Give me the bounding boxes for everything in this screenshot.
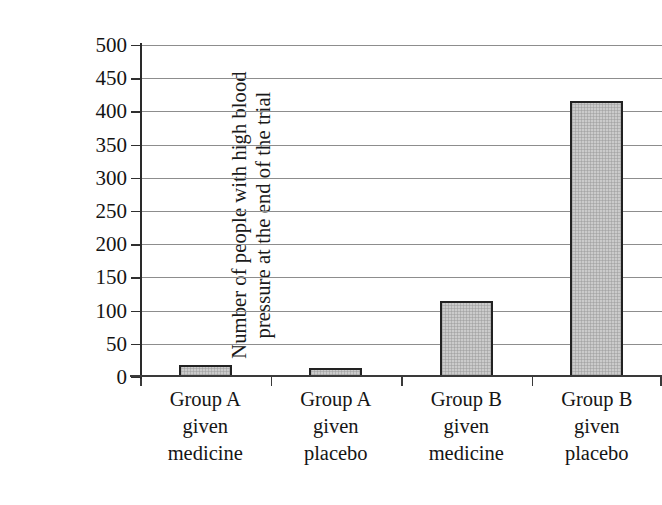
y-axis-title: Number of people with high blood pressur…: [0, 0, 92, 430]
x-axis-tick: [401, 377, 403, 386]
y-axis-tick-label: 150: [96, 267, 128, 288]
y-axis-tick-label: 200: [96, 234, 128, 255]
y-axis-tick: [131, 211, 140, 212]
x-axis-line: [130, 375, 662, 377]
x-axis-category-label-line: Group B: [532, 386, 662, 413]
y-axis-tick-label: 50: [106, 333, 127, 354]
x-axis-category-label: Group Agivenplacebo: [271, 386, 402, 467]
gridline: [140, 45, 662, 46]
y-axis-tick-label: 450: [96, 68, 128, 89]
plot-area: 500450400350300250200150100500: [140, 45, 662, 377]
x-axis-category-label-line: given: [532, 413, 662, 440]
x-axis-category-label-line: given: [271, 413, 402, 440]
y-axis-line: [140, 43, 142, 379]
bar: [440, 301, 493, 377]
x-axis-tick: [532, 377, 534, 386]
bar-chart-figure: Number of people with high blood pressur…: [0, 0, 662, 505]
y-axis-tick: [131, 78, 140, 79]
y-axis-tick: [131, 311, 140, 312]
x-axis-tick: [271, 377, 273, 386]
x-axis-category-label: Group Agivenmedicine: [140, 386, 271, 467]
bar: [570, 101, 623, 377]
x-axis-category-label-line: given: [140, 413, 271, 440]
x-axis-category-label-line: placebo: [271, 440, 402, 467]
y-axis-tick-label: 0: [117, 367, 128, 388]
y-axis-tick: [131, 111, 140, 112]
x-axis-category-label-line: Group A: [271, 386, 402, 413]
y-axis-tick: [131, 277, 140, 278]
y-axis-tick-label: 250: [96, 201, 128, 222]
x-axis-category-label: Group Bgivenmedicine: [401, 386, 532, 467]
y-axis-tick: [131, 344, 140, 345]
x-axis-category-label: Group Bgivenplacebo: [532, 386, 662, 467]
y-axis-tick-label: 350: [96, 134, 128, 155]
x-axis-category-label-line: medicine: [140, 440, 271, 467]
x-axis-category-label-line: given: [401, 413, 532, 440]
y-axis-tick: [131, 145, 140, 146]
y-axis-tick-label: 400: [96, 101, 128, 122]
x-axis-category-label-line: Group A: [140, 386, 271, 413]
y-axis-tick-label: 500: [96, 35, 128, 56]
y-axis-tick-label: 300: [96, 167, 128, 188]
y-axis-tick: [131, 244, 140, 245]
y-axis-tick: [131, 377, 140, 378]
y-axis-tick-label: 100: [96, 300, 128, 321]
gridline: [140, 78, 662, 79]
y-axis-tick: [131, 45, 140, 46]
x-axis-category-label-line: medicine: [401, 440, 532, 467]
x-axis-category-label-line: Group B: [401, 386, 532, 413]
x-axis-labels-group: Group AgivenmedicineGroup AgivenplaceboG…: [140, 386, 662, 496]
x-axis-category-label-line: placebo: [532, 440, 662, 467]
y-axis-tick: [131, 178, 140, 179]
